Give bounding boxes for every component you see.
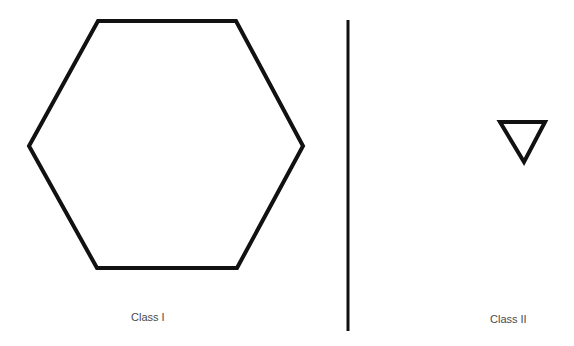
class-2-label: Class II: [490, 313, 527, 325]
diagram-canvas: [0, 0, 574, 346]
hexagon-shape: [29, 21, 303, 268]
triangle-shape: [500, 122, 545, 162]
class-1-label: Class I: [131, 311, 165, 323]
